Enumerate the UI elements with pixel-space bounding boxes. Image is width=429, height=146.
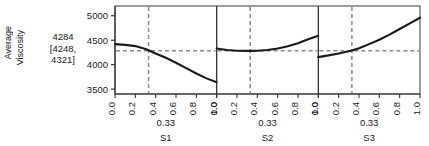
x-tick-label: 0.4 [147,102,158,115]
prediction-curve[interactable] [217,36,319,51]
factor-current-value[interactable]: 0.33 [258,117,277,128]
prediction-curve[interactable] [115,44,217,82]
x-tick-label: 0.6 [167,102,178,115]
x-tick-label: 0.0 [106,102,117,115]
x-tick-label: 1.0 [411,102,422,115]
x-tick-label: 0.8 [289,102,300,115]
factor-name-label: S2 [262,132,274,143]
factor-name-label: S1 [160,132,172,143]
x-tick-label: 0.0 [208,102,219,115]
x-tick-label: 0.4 [248,102,259,115]
x-tick-label: 0.2 [228,102,239,115]
x-tick-label: 0.2 [330,102,341,115]
x-tick-label: 0.8 [187,102,198,115]
profiler-chart: 35004000450050000.00.20.40.60.81.00.33S1… [0,0,429,146]
y-tick-label: 3500 [87,84,108,95]
profiler-plot-container: Average Viscosity 4284 [4248, 4321] 3500… [0,0,429,146]
factor-current-value[interactable]: 0.33 [360,117,379,128]
x-tick-label: 0.6 [269,102,280,115]
y-tick-label: 4000 [87,59,108,70]
factor-current-value[interactable]: 0.33 [157,117,176,128]
x-tick-label: 0.8 [391,102,402,115]
y-tick-label: 5000 [87,10,108,21]
x-tick-label: 0.2 [126,102,137,115]
x-tick-label: 0.0 [309,102,320,115]
x-tick-label: 0.4 [350,102,361,115]
x-tick-label: 0.6 [370,102,381,115]
factor-name-label: S3 [363,132,375,143]
y-tick-label: 4500 [87,35,108,46]
